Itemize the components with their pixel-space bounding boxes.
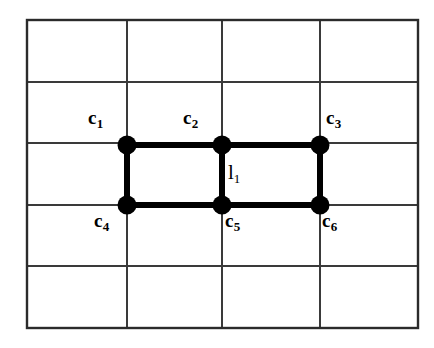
node-label-c6: c6 — [322, 211, 337, 230]
node-label-c1-sub: 1 — [97, 116, 104, 131]
node-label-c6-base: c — [322, 210, 331, 231]
node-label-c4-sub: 4 — [103, 219, 110, 234]
graph-node-c3 — [311, 136, 330, 155]
edge-label-l1-base: l — [228, 160, 234, 184]
node-label-c2-base: c — [183, 107, 192, 128]
node-label-c2-sub: 2 — [192, 116, 199, 131]
figure-canvas — [0, 0, 434, 348]
node-label-c4: c4 — [94, 211, 109, 230]
node-label-c3-base: c — [326, 107, 335, 128]
node-label-c1-base: c — [88, 107, 97, 128]
grid-graph-figure: c1 c2 c3 c4 c5 c6 l1 — [0, 0, 434, 348]
graph-node-c4 — [118, 196, 137, 215]
node-label-c5-sub: 5 — [234, 219, 241, 234]
node-label-c5: c5 — [225, 211, 240, 230]
graph-node-c1 — [118, 136, 137, 155]
node-label-c2: c2 — [183, 108, 198, 127]
edge-label-l1-sub: 1 — [234, 171, 241, 186]
node-label-c4-base: c — [94, 210, 103, 231]
node-label-c1: c1 — [88, 108, 103, 127]
graph-node-c2 — [213, 136, 232, 155]
node-label-c3-sub: 3 — [335, 116, 342, 131]
node-label-c3: c3 — [326, 108, 341, 127]
node-label-c6-sub: 6 — [331, 219, 338, 234]
node-label-c5-base: c — [225, 210, 234, 231]
edge-label-l1: l1 — [228, 162, 240, 183]
